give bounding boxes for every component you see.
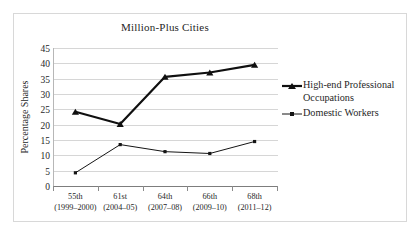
y-tick-label: 15 [41,136,51,146]
x-tick-label: 61st(2004–05) [103,192,137,213]
x-tick-label-round: 55th [54,192,96,203]
x-tick [143,186,144,191]
x-tick [277,186,278,191]
legend-item[interactable]: Domestic Workers [281,106,416,121]
x-tick-label: 66th(2009–10) [193,192,227,213]
x-tick-label-years: (1999–2000) [54,203,96,214]
y-tick-label: 20 [41,121,51,131]
y-tick-label: 25 [41,105,51,115]
x-tick [98,186,99,191]
y-tick-label: 40 [41,59,51,69]
legend-item[interactable]: High-end Professional Occupations [281,78,416,104]
y-tick-label: 35 [41,75,51,85]
x-tick-label-round: 68th [238,192,272,203]
y-axis-title: Percentage Shares [19,80,30,153]
y-tick-label: 45 [41,44,51,54]
legend-label: Domestic Workers [303,106,379,119]
chart-figure: Million-Plus Cities Percentage Shares 45… [0,0,420,235]
data-point-marker [253,140,256,143]
gridline: 0 [54,186,278,187]
x-tick-label-round: 61st [103,192,137,203]
triangle-marker-icon [281,79,303,93]
y-tick-label: 0 [45,182,50,192]
x-tick [187,186,188,191]
y-tick-label: 10 [41,151,51,161]
y-tick-label: 30 [41,90,51,100]
x-tick [232,186,233,191]
legend-label: High-end Professional Occupations [303,78,416,104]
data-point-marker [208,152,211,155]
x-tick-label-round: 64th [148,192,182,203]
x-tick-label-round: 66th [193,192,227,203]
x-tick-label: 64th(2007–08) [148,192,182,213]
x-tick-label: 68th(2011–12) [238,192,272,213]
data-point-marker [163,150,166,153]
x-tick-label-years: (2011–12) [238,203,272,214]
series-layer [53,48,277,186]
y-tick-label: 5 [45,167,50,177]
chart-legend: High-end Professional OccupationsDomesti… [281,78,416,123]
data-point-marker [74,171,77,174]
square-marker-icon [281,107,303,121]
x-tick-label-years: (2007–08) [148,203,182,214]
x-tick-label-years: (2009–10) [193,203,227,214]
data-point-marker [119,143,122,146]
chart-title: Million-Plus Cities [53,21,277,33]
x-tick-label-years: (2004–05) [103,203,137,214]
series-line [75,65,254,124]
series-line [75,142,254,173]
x-tick-label: 55th(1999–2000) [54,192,96,213]
x-tick [53,186,54,191]
